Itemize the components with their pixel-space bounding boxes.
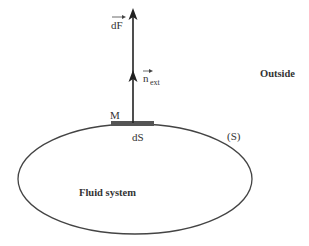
outside-label: Outside: [260, 68, 295, 79]
fluid-system-label: Fluid system: [79, 187, 136, 198]
svg-text:ext: ext: [150, 78, 161, 87]
point-m-label: M: [110, 109, 120, 121]
fluid-force-diagram: dF n ext M dS (S) Outside Fluid system: [0, 0, 309, 246]
force-label: dF: [111, 15, 126, 31]
surface-label: (S): [227, 130, 241, 143]
surface-element-label: dS: [132, 131, 144, 143]
svg-text:dF: dF: [111, 19, 123, 31]
svg-text:n: n: [143, 72, 149, 84]
normal-vector-label: n ext: [143, 69, 161, 87]
